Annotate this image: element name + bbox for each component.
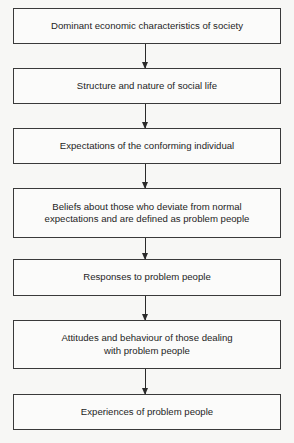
node-conforming-expectations: Expectations of the conforming individua… [13,128,281,164]
arrow-down-icon [145,164,146,188]
node-responses: Responses to problem people [13,259,281,296]
node-attitudes-behaviour: Attitudes and behaviour of those dealing… [13,320,281,369]
node-economic-characteristics: Dominant economic characteristics of soc… [13,8,281,44]
node-label: Expectations of the conforming individua… [60,140,234,153]
node-experiences: Experiences of problem people [13,394,281,430]
node-label: Attitudes and behaviour of those dealing… [52,332,242,357]
node-label: Beliefs about those who deviate from nor… [32,201,262,226]
node-label: Structure and nature of social life [77,80,217,93]
arrow-down-icon [145,369,146,394]
arrow-down-icon [145,104,146,128]
node-label: Experiences of problem people [81,406,213,419]
arrow-down-icon [145,238,146,259]
arrow-down-icon [145,296,146,320]
node-beliefs-about-deviants: Beliefs about those who deviate from nor… [13,188,281,238]
arrow-down-icon [145,44,146,68]
node-label: Dominant economic characteristics of soc… [51,20,243,33]
node-label: Responses to problem people [83,271,210,284]
node-social-life: Structure and nature of social life [13,68,281,104]
